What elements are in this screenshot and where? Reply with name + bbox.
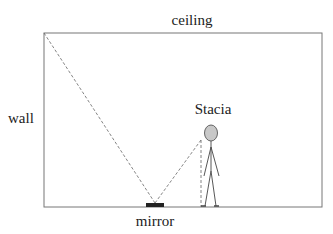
mirror-diagram: ceiling wall Stacia mirror xyxy=(0,0,333,234)
mirror-label: mirror xyxy=(136,213,174,229)
incident-ray xyxy=(44,33,155,203)
ceiling-label: ceiling xyxy=(172,12,213,28)
room-outline xyxy=(44,33,322,207)
person-label: Stacia xyxy=(195,101,232,117)
head xyxy=(205,125,218,141)
mirror xyxy=(146,203,164,207)
wall-label: wall xyxy=(8,110,34,126)
stacia-figure xyxy=(201,125,219,206)
reflected-ray xyxy=(155,140,201,203)
